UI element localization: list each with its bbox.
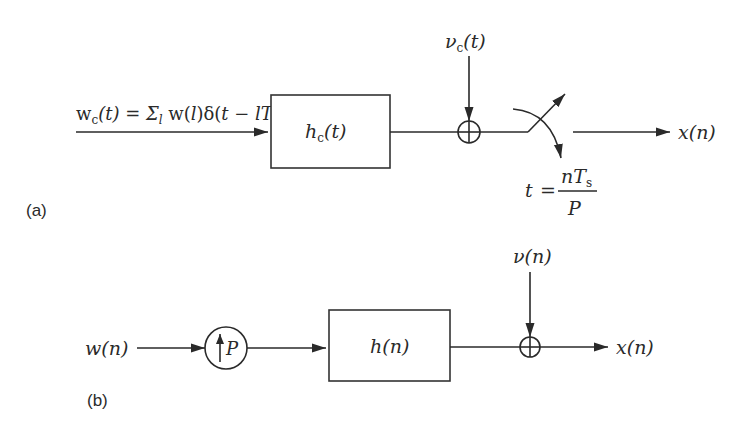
panel-b-summing-junction: [520, 337, 540, 357]
panel-b-upsampler: P: [205, 327, 247, 369]
panel-a: wc(t) = Σl w(l)δ(t − lTs) hc(t) νc(t): [26, 30, 716, 220]
panel-a-output-label: x(n): [678, 121, 716, 143]
svg-text:nTs: nTs: [561, 165, 592, 190]
svg-text:t: t: [525, 179, 533, 201]
svg-text:P: P: [225, 338, 239, 359]
block-diagram: wc(t) = Σl w(l)δ(t − lTs) hc(t) νc(t): [0, 0, 748, 430]
panel-a-label: (a): [26, 201, 47, 220]
svg-text:P: P: [567, 197, 582, 219]
panel-a-sampler-switch: [513, 94, 565, 158]
panel-b: w(n) P h(n) ν(n) x(n) (b): [85, 245, 654, 410]
panel-b-label: (b): [87, 391, 108, 410]
panel-b-output-label: x(n): [616, 336, 654, 358]
panel-b-filter-label: h(n): [370, 335, 409, 357]
panel-a-noise-label: νc(t): [445, 30, 486, 55]
panel-a-summing-junction: [458, 121, 480, 143]
panel-b-noise-label: ν(n): [513, 245, 552, 267]
panel-a-input-label: wc(t) = Σl w(l)δ(t − lTs): [76, 103, 286, 127]
svg-text:=: =: [540, 179, 556, 201]
panel-a-filter-label: hc(t): [305, 120, 346, 145]
panel-a-sampling-instant: t = nTs P: [525, 165, 597, 219]
panel-b-input-label: w(n): [85, 337, 128, 359]
